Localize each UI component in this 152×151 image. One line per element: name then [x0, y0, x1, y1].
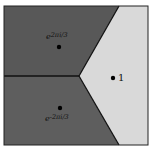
label-one: 1 — [118, 72, 124, 83]
point-lower — [58, 106, 62, 110]
point-upper — [57, 45, 61, 49]
point-one — [111, 76, 115, 80]
voronoi-diagram: e2πi/3 e-2πi/3 1 — [0, 0, 152, 151]
